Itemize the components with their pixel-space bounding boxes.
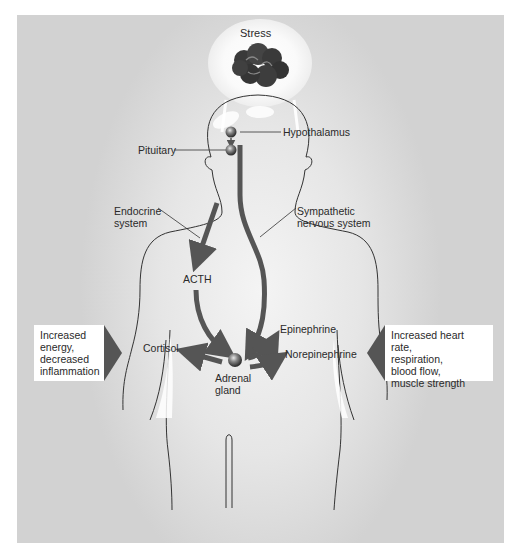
pituitary-label: Pituitary [138,144,176,156]
acth-label: ACTH [183,273,212,285]
stress-label: Stress [240,27,271,39]
right-pointer-icon [367,325,385,381]
adrenal-label: Adrenal gland [215,372,251,396]
norepinephrine-label: Norepinephrine [285,348,357,360]
left-pointer-icon [104,325,122,381]
hypothalamus-label: Hypothalamus [283,126,350,138]
epinephrine-label: Epinephrine [280,323,336,335]
sympathetic-effect-box: Increased heart rate, respiration, blood… [385,325,493,381]
sympathetic-pathway-arrow [240,145,265,348]
cortisol-effect-box: Increased energy, decreased inflammation [34,325,104,381]
sympathetic-label: Sympathetic nervous system [297,205,371,229]
body-figure [0,0,518,556]
endocrine-label: Endocrine system [114,205,161,229]
cortisol-label: Cortisol [143,342,179,354]
acth-arrow [196,290,224,350]
pituitary-gland [226,145,237,156]
adrenal-gland [228,353,242,367]
norepinephrine-arrow [250,360,276,367]
body-outline [123,95,387,510]
hypothalamus-gland [226,127,237,138]
endocrine-pathway-arrow [198,203,217,258]
cortisol-arrow [190,353,222,362]
